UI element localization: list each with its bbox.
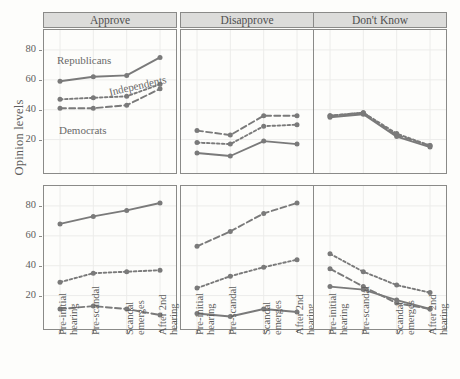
data-point: [58, 221, 63, 226]
x-tick-label: emerges: [405, 300, 416, 335]
data-point: [228, 229, 233, 234]
data-point: [428, 143, 433, 148]
x-tick-label: emerges: [135, 300, 146, 335]
x-tick-label: hearing: [68, 304, 79, 336]
data-point: [295, 201, 300, 206]
data-point: [58, 97, 63, 102]
data-point: [295, 257, 300, 262]
data-point: [58, 280, 63, 285]
data-point: [195, 286, 200, 291]
y-tick-label: 60: [12, 229, 36, 240]
x-tick-label: emerges: [272, 300, 283, 335]
x-tick-label: Pre-scandal: [360, 286, 371, 335]
series-line-democrats: [197, 203, 297, 246]
data-point: [58, 79, 63, 84]
data-point: [195, 140, 200, 145]
data-point: [228, 142, 233, 147]
panel-thomas-don-t-know: [313, 29, 447, 174]
x-tick-label: After 2nd: [427, 294, 438, 335]
y-tick-label: 40: [12, 103, 36, 114]
x-tick-label: hearing: [438, 304, 449, 336]
data-point: [158, 201, 163, 206]
data-point: [91, 106, 96, 111]
data-point: [394, 133, 399, 138]
x-tick-label: Pre-initial: [57, 293, 68, 335]
data-point: [361, 269, 366, 274]
data-point: [261, 139, 266, 144]
x-tick-label: Pre-initial: [327, 293, 338, 335]
column-strip-don-t-know: Don't Know: [313, 12, 447, 28]
data-point: [394, 283, 399, 288]
y-tick-label: 20: [12, 133, 36, 144]
series-line-independents: [197, 125, 297, 144]
panel-plot-area: [44, 30, 176, 173]
series-line-republicans: [330, 114, 430, 147]
column-strip-disapprove: Disapprove: [180, 12, 314, 28]
data-point: [261, 265, 266, 270]
data-point: [295, 122, 300, 127]
y-tick-mark: [39, 80, 42, 81]
data-point: [158, 268, 163, 273]
x-tick-label: hearing: [205, 304, 216, 336]
data-point: [195, 128, 200, 133]
data-point: [328, 266, 333, 271]
y-tick-mark: [39, 50, 42, 51]
y-tick-label: 20: [12, 289, 36, 300]
y-tick-label: 80: [12, 199, 36, 210]
data-point: [195, 244, 200, 249]
x-tick-label: hearing: [338, 304, 349, 336]
data-point: [261, 124, 266, 129]
series-line-democrats: [330, 113, 430, 146]
series-line-independents: [330, 254, 430, 293]
x-tick-label: Pre-initial: [194, 293, 205, 335]
data-point: [124, 103, 129, 108]
y-tick-mark: [39, 266, 42, 267]
data-point: [124, 73, 129, 78]
x-tick-label: Pre-scandal: [227, 286, 238, 335]
data-point: [261, 211, 266, 216]
y-tick-mark: [39, 110, 42, 111]
x-tick-label: Scandal: [394, 302, 405, 335]
y-tick-label: 40: [12, 259, 36, 270]
x-tick-label: hearing: [168, 304, 179, 336]
x-tick-label: After 2nd: [157, 294, 168, 335]
series-line-independents: [197, 260, 297, 288]
data-point: [328, 251, 333, 256]
data-point: [124, 269, 129, 274]
data-point: [124, 94, 129, 99]
x-tick-label: Scandal: [124, 302, 135, 335]
data-point: [295, 142, 300, 147]
data-point: [228, 133, 233, 138]
data-point: [91, 95, 96, 100]
y-tick-mark: [39, 140, 42, 141]
panel-thomas-disapprove: [180, 29, 314, 174]
data-point: [124, 208, 129, 213]
panel-thomas-approve: [43, 29, 177, 174]
x-tick-label: After 2nd: [294, 294, 305, 335]
x-tick-label: Pre-scandal: [90, 286, 101, 335]
y-tick-mark: [39, 236, 42, 237]
data-point: [158, 55, 163, 60]
data-point: [295, 113, 300, 118]
data-point: [91, 74, 96, 79]
data-point: [195, 151, 200, 156]
y-tick-label: 60: [12, 73, 36, 84]
data-point: [228, 154, 233, 159]
faceted-line-chart: Opinion levelsApproveApproveDisapproveDi…: [0, 0, 460, 379]
y-tick-mark: [39, 296, 42, 297]
data-point: [228, 274, 233, 279]
panel-plot-area: [181, 30, 313, 173]
data-point: [91, 271, 96, 276]
data-point: [58, 106, 63, 111]
panel-plot-area: [314, 30, 446, 173]
data-point: [328, 284, 333, 289]
y-tick-mark: [39, 206, 42, 207]
y-tick-label: 80: [12, 43, 36, 54]
data-point: [328, 113, 333, 118]
column-strip-approve: Approve: [43, 12, 177, 28]
data-point: [361, 110, 366, 115]
annotation-democrats: Democrats: [59, 124, 107, 136]
x-tick-label: Scandal: [261, 302, 272, 335]
series-line-independents: [60, 270, 160, 282]
data-point: [158, 86, 163, 91]
